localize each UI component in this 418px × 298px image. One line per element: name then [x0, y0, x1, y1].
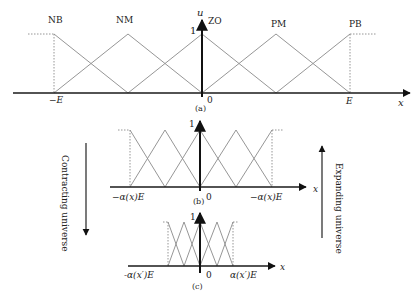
- contracting-arrow: Contracting universe: [60, 143, 86, 251]
- set-label-pb: PB: [349, 19, 362, 29]
- x-tick-zero-a: 0: [207, 95, 213, 105]
- y-tick-1-b: 1: [189, 119, 195, 129]
- caption-c: (c): [192, 282, 203, 291]
- y-tick-1-a: 1: [190, 25, 196, 36]
- x-tick-neg-ae-b: −α(x)E: [112, 192, 145, 202]
- panel-b: 1 −α(x)E 0 −α(x)E x (b): [110, 119, 318, 206]
- x-tick-neg-ae-c: -α(x′)E: [124, 270, 154, 280]
- y-tick-1-c: 1: [190, 212, 196, 222]
- x-tick-zero-c: 0: [206, 270, 212, 280]
- set-label-pm: PM: [271, 19, 286, 29]
- u-axis-label: u: [197, 7, 203, 18]
- set-label-nb: NB: [48, 15, 63, 25]
- set-label-zo: ZO: [208, 16, 222, 26]
- panel-c: 1 -α(x′)E 0 α(x′)E x (c): [124, 212, 285, 291]
- caption-b: (b): [193, 197, 204, 206]
- x-axis-label-c: x: [280, 262, 285, 272]
- x-axis-label-a: x: [398, 97, 404, 108]
- x-tick-pos-ae-c: α(x′)E: [230, 270, 257, 280]
- expanding-arrow: Expanding universe: [322, 146, 344, 254]
- x-tick-pos-ae-b: −α(x)E: [250, 192, 283, 202]
- x-tick-e: E: [345, 96, 353, 106]
- contracting-label: Contracting universe: [60, 155, 70, 251]
- x-axis-label-b: x: [313, 184, 318, 194]
- x-tick-neg-e: −E: [49, 95, 64, 105]
- caption-a: (a): [195, 104, 206, 113]
- set-label-nm: NM: [116, 15, 133, 25]
- x-tick-zero-b: 0: [206, 192, 212, 202]
- panel-a: NB NM ZO PM PB u 1 −E 0 E x (a): [13, 7, 410, 113]
- fuzzy-universe-diagram: NB NM ZO PM PB u 1 −E 0 E x (a) 1 −α(x)E…: [0, 0, 418, 298]
- expanding-label: Expanding universe: [334, 163, 344, 254]
